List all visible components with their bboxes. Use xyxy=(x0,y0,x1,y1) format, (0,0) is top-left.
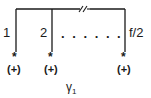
leg-1-asterisk: * xyxy=(12,51,17,63)
leg-label-f2: f/2 xyxy=(129,26,143,39)
leg-label-2: 2 xyxy=(40,26,47,39)
leg-2-charge: (+) xyxy=(44,64,58,75)
leg-label-1: 1 xyxy=(3,26,10,39)
leg-2-asterisk: * xyxy=(48,51,53,63)
caption-gamma: γ1 xyxy=(66,81,76,98)
ellipsis: . . . . . . xyxy=(61,27,123,40)
leg-f2-charge: (+) xyxy=(117,64,131,75)
break-mark-icon xyxy=(79,6,90,12)
leg-f2-asterisk: * xyxy=(121,51,126,63)
caption-subscript: 1 xyxy=(72,87,76,96)
leg-1-charge: (+) xyxy=(7,64,21,75)
